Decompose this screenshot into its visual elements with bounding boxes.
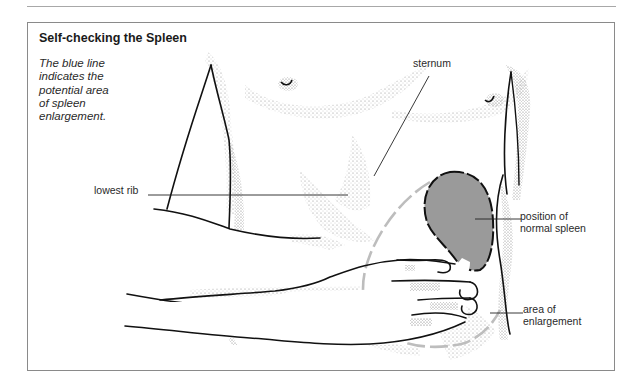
caption-line: The blue line [39, 57, 129, 70]
figure-title: Self-checking the Spleen [39, 31, 187, 45]
caption-line: potential area [39, 84, 129, 97]
caption-line: of spleen [39, 97, 129, 110]
caption-line: indicates the [39, 70, 129, 83]
normal-spleen-shape [425, 172, 494, 271]
label-lowest-rib: lowest rib [94, 185, 138, 197]
label-normal-spleen: position of normal spleen [520, 211, 586, 234]
label-line: normal spleen [520, 223, 586, 235]
label-line: enlargement [523, 316, 581, 328]
label-area-of-enlargement: area of enlargement [523, 304, 581, 327]
label-sternum: sternum [413, 58, 451, 70]
label-line: area of [523, 304, 581, 316]
figure-caption: The blue line indicates the potential ar… [39, 57, 129, 123]
label-line: position of [520, 211, 586, 223]
caption-line: enlargement. [39, 110, 129, 123]
